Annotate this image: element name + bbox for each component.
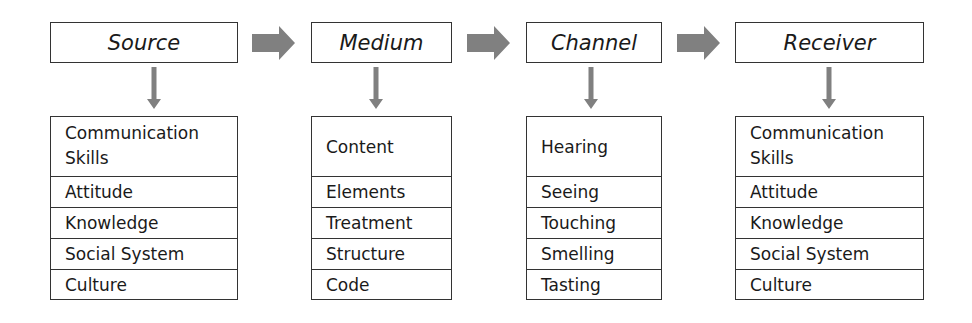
list-item: Social System [51, 238, 237, 269]
list-item: Hearing [527, 117, 661, 176]
list-item: Touching [527, 207, 661, 238]
down-arrow-icon [147, 67, 161, 109]
stage-receiver-header: Receiver [735, 22, 924, 63]
list-item: Social System [736, 238, 923, 269]
list-item: Knowledge [736, 207, 923, 238]
list-item: Tasting [527, 269, 661, 300]
right-arrow-icon [467, 25, 511, 61]
list-item: Treatment [312, 207, 451, 238]
receiver-attributes-list: Communication Skills Attitude Knowledge … [735, 116, 924, 300]
stage-label: Source [108, 31, 181, 55]
list-item: Knowledge [51, 207, 237, 238]
list-item: Seeing [527, 176, 661, 207]
down-arrow-icon [369, 67, 383, 109]
down-arrow-icon [584, 67, 598, 109]
stage-medium-header: Medium [311, 22, 452, 63]
right-arrow-icon [252, 25, 296, 61]
list-item: Attitude [736, 176, 923, 207]
right-arrow-icon [677, 25, 721, 61]
stage-label: Medium [340, 31, 424, 55]
list-item: Attitude [51, 176, 237, 207]
stage-channel-header: Channel [526, 22, 662, 63]
list-item: Communication Skills [51, 117, 237, 176]
down-arrow-icon [822, 67, 836, 109]
stage-label: Receiver [784, 31, 876, 55]
list-item: Communication Skills [736, 117, 923, 176]
channel-attributes-list: Hearing Seeing Touching Smelling Tasting [526, 116, 662, 300]
list-item: Culture [736, 269, 923, 300]
list-item: Smelling [527, 238, 661, 269]
stage-source-header: Source [50, 22, 238, 63]
source-attributes-list: Communication Skills Attitude Knowledge … [50, 116, 238, 300]
list-item: Structure [312, 238, 451, 269]
list-item: Elements [312, 176, 451, 207]
stage-label: Channel [551, 31, 637, 55]
list-item: Code [312, 269, 451, 300]
list-item: Culture [51, 269, 237, 300]
medium-attributes-list: Content Elements Treatment Structure Cod… [311, 116, 452, 300]
list-item: Content [312, 117, 451, 176]
